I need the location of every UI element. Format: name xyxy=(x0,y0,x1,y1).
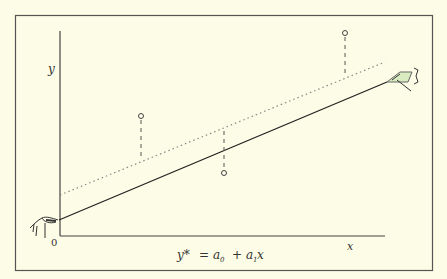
left-hand-icon xyxy=(30,217,58,238)
x-axis-label: x xyxy=(347,240,354,253)
data-point xyxy=(343,31,348,36)
svg-text:y*: y* xyxy=(176,248,190,262)
equation-label: y* = a 0 + a 1 x xyxy=(176,248,264,264)
regression-diagram: y 0 x y* = a 0 + a 1 x xyxy=(0,0,447,279)
right-hand-icon xyxy=(387,68,418,91)
origin-label: 0 xyxy=(51,237,57,248)
fitted-line xyxy=(59,82,387,220)
svg-text:=: = xyxy=(199,248,209,262)
data-point xyxy=(222,171,227,176)
svg-text:0: 0 xyxy=(220,256,225,264)
data-point xyxy=(139,114,144,119)
svg-text:+: + xyxy=(232,248,242,262)
svg-text:x: x xyxy=(257,248,264,262)
y-axis-label: y xyxy=(47,62,55,76)
